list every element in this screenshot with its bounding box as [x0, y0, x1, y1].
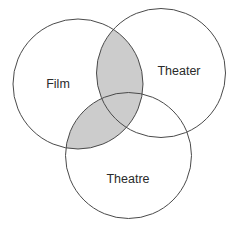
shaded-intersection [66, 9, 226, 219]
theater-label: Theater [157, 64, 200, 78]
theatre-label: Theatre [106, 172, 149, 186]
venn-diagram: Film Theater Theatre [0, 0, 232, 230]
shade-film-theatre [66, 93, 192, 219]
film-label: Film [46, 77, 70, 91]
